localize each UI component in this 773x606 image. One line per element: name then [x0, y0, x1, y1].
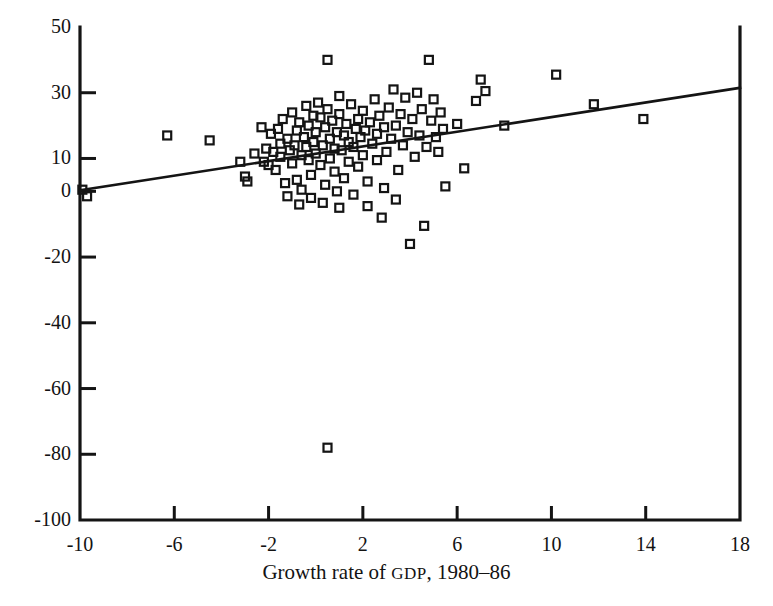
scatter-point — [331, 168, 339, 176]
scatter-point — [411, 153, 419, 161]
scatter-point — [206, 136, 214, 144]
scatter-point — [385, 104, 393, 112]
x-axis-tick-label: 10 — [511, 534, 591, 554]
y-axis-ticks — [80, 93, 96, 455]
scatter-point — [639, 115, 647, 123]
scatter-point — [408, 115, 416, 123]
scatter-point — [324, 56, 332, 64]
scatter-point — [392, 122, 400, 130]
plot-canvas — [0, 0, 773, 606]
x-axis-tick-label: -6 — [134, 534, 214, 554]
scatter-point — [324, 444, 332, 452]
x-axis-title-gdp: GDP — [391, 564, 426, 583]
y-axis-tick-label: 30 — [51, 82, 71, 102]
scatter-point — [314, 99, 322, 107]
scatter-point — [342, 120, 350, 128]
y-axis-tick-label: -40 — [44, 312, 71, 332]
trendline-group — [80, 88, 740, 191]
x-axis-ticks — [174, 506, 645, 520]
scatter-point — [316, 161, 324, 169]
scatter-point — [380, 184, 388, 192]
scatter-point — [460, 164, 468, 172]
x-axis-tick-label: 2 — [323, 534, 403, 554]
scatter-point — [552, 71, 560, 79]
scatter-point — [288, 159, 296, 167]
x-axis-title: Growth rate of GDP, 1980–86 — [0, 560, 773, 586]
scatter-point — [293, 176, 301, 184]
scatter-point — [373, 156, 381, 164]
scatter-point — [399, 141, 407, 149]
y-axis-tick-label: -20 — [44, 246, 71, 266]
scatter-point — [390, 85, 398, 93]
scatter-point — [335, 92, 343, 100]
y-axis-tick-label: 50 — [51, 16, 71, 36]
scatter-point — [298, 186, 306, 194]
scatter-point — [359, 107, 367, 115]
scatter-point — [364, 177, 372, 185]
x-axis-title-before: Growth rate of — [262, 560, 391, 584]
scatter-point — [413, 89, 421, 97]
scatter-point — [406, 240, 414, 248]
scatter-point — [324, 105, 332, 113]
scatter-point — [404, 128, 412, 136]
scatter-point — [347, 100, 355, 108]
scatter-point — [366, 118, 374, 126]
scatter-point — [441, 182, 449, 190]
scatter-point — [295, 200, 303, 208]
scatter-point — [283, 192, 291, 200]
x-axis-tick-label: -10 — [40, 534, 120, 554]
scatter-point — [354, 163, 362, 171]
scatter-point — [430, 95, 438, 103]
scatter-point — [481, 87, 489, 95]
scatter-point — [354, 115, 362, 123]
scatter-point — [319, 199, 327, 207]
scatter-point — [394, 166, 402, 174]
scatter-point — [439, 125, 447, 133]
x-axis-tick-label: 14 — [606, 534, 686, 554]
scatter-point — [288, 108, 296, 116]
scatter-point — [437, 108, 445, 116]
scatter-point — [279, 115, 287, 123]
scatter-point — [352, 125, 360, 133]
scatter-point — [250, 150, 258, 158]
scatter-point — [281, 179, 289, 187]
scatter-point — [401, 94, 409, 102]
y-axis-tick-label: -80 — [44, 443, 71, 463]
scatter-point — [392, 196, 400, 204]
scatter-point — [434, 148, 442, 156]
scatter-point — [378, 214, 386, 222]
scatter-point — [427, 117, 435, 125]
scatter-point — [307, 194, 315, 202]
x-axis-tick-label: -2 — [229, 534, 309, 554]
scatter-point — [382, 148, 390, 156]
scatter-point — [364, 202, 372, 210]
regression-line — [80, 88, 740, 191]
scatter-point — [477, 76, 485, 84]
scatter-point — [371, 95, 379, 103]
scatter-figure: 5030100-20-40-60-80-100 -10-6-226101418 … — [0, 0, 773, 606]
scatter-point — [453, 120, 461, 128]
y-axis-tick-label: -60 — [44, 378, 71, 398]
scatter-point — [321, 181, 329, 189]
scatter-point — [472, 97, 480, 105]
scatter-point — [302, 102, 310, 110]
scatter-point — [326, 154, 334, 162]
scatter-point — [423, 143, 431, 151]
scatter-point — [335, 204, 343, 212]
scatter-point — [333, 187, 341, 195]
y-axis-tick-label: 0 — [61, 180, 71, 200]
scatter-point — [420, 222, 428, 230]
y-axis-tick-label: 10 — [51, 147, 71, 167]
x-axis-title-after: , 1980–86 — [427, 560, 511, 584]
scatter-point — [163, 131, 171, 139]
scatter-point — [345, 158, 353, 166]
x-axis-tick-label: 6 — [417, 534, 497, 554]
scatter-point — [258, 123, 266, 131]
scatter-point — [307, 171, 315, 179]
scatter-point — [425, 56, 433, 64]
scatter-point — [349, 191, 357, 199]
x-axis-tick-label: 18 — [700, 534, 773, 554]
scatter-point — [418, 105, 426, 113]
y-axis-tick-label: -100 — [34, 509, 71, 529]
scatter-point — [375, 112, 383, 120]
